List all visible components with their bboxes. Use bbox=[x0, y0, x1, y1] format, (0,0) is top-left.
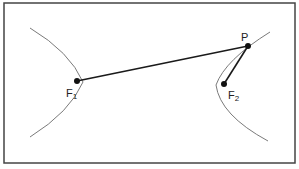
point-p bbox=[245, 43, 251, 49]
focus-f1-point bbox=[74, 78, 80, 84]
diagram-frame bbox=[4, 3, 295, 163]
focus-f2-point bbox=[221, 81, 227, 87]
hyperbola-diagram: F1 F2 P bbox=[0, 0, 299, 169]
label-p: P bbox=[241, 31, 248, 43]
